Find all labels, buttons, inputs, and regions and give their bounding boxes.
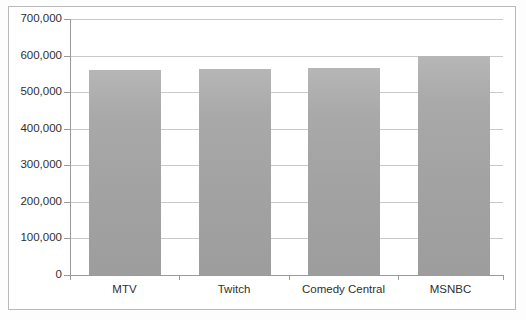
bar-msnbc[interactable] — [418, 56, 490, 275]
x-tick-twitch-comedy-central — [289, 275, 290, 280]
y-axis-label-700000: 700,000 — [4, 13, 62, 25]
bars-layer — [70, 19, 504, 275]
y-axis-label-500000: 500,000 — [4, 86, 62, 98]
y-axis-label-200000: 200,000 — [4, 196, 62, 208]
x-tick-end — [503, 275, 504, 280]
bar-mtv[interactable] — [89, 70, 161, 275]
x-tick-start — [70, 275, 71, 280]
y-tick-600000 — [64, 56, 70, 57]
y-axis-labels: 700,000 600,000 500,000 400,000 300,000 … — [0, 0, 62, 320]
y-axis-label-0: 0 — [4, 269, 62, 281]
x-axis-label-mtv: MTV — [70, 284, 179, 296]
bar-chart-figure: 700,000 600,000 500,000 400,000 300,000 … — [0, 0, 526, 320]
y-axis-label-400000: 400,000 — [4, 123, 62, 135]
y-axis-label-600000: 600,000 — [4, 50, 62, 62]
x-axis-label-comedy-central: Comedy Central — [289, 284, 398, 296]
y-tick-100000 — [64, 238, 70, 239]
y-tick-700000 — [64, 19, 70, 20]
y-tick-200000 — [64, 202, 70, 203]
bar-comedy-central[interactable] — [308, 68, 380, 275]
x-tick-comedy-central-msnbc — [398, 275, 399, 280]
value-axis-line — [70, 19, 71, 276]
x-axis-label-twitch: Twitch — [179, 284, 289, 296]
y-tick-300000 — [64, 165, 70, 166]
y-tick-500000 — [64, 92, 70, 93]
y-tick-400000 — [64, 129, 70, 130]
y-axis-label-300000: 300,000 — [4, 159, 62, 171]
x-axis-label-msnbc: MSNBC — [398, 284, 503, 296]
x-tick-mtv-twitch — [179, 275, 180, 280]
category-axis-line — [70, 275, 504, 276]
y-axis-label-100000: 100,000 — [4, 232, 62, 244]
bar-twitch[interactable] — [199, 69, 271, 275]
